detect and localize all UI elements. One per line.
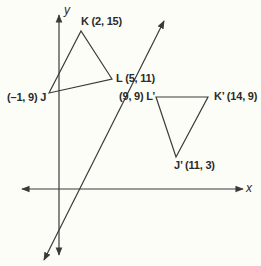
vertex-k-label: K (2, 15) (81, 15, 122, 27)
triangle-j-prime-k-prime-l-prime (156, 97, 208, 157)
reflection-line (44, 21, 164, 260)
vertex-j-label: (–1, 9) J (7, 91, 46, 103)
vertex-l-prime-label: (9, 9) L’ (119, 90, 155, 102)
y-axis-label: y (64, 3, 70, 17)
coordinate-plane (0, 0, 261, 266)
vertex-k-prime-label: K’ (14, 9) (214, 90, 257, 102)
vertex-j-prime-label: J’ (11, 3) (174, 159, 215, 171)
x-axis-label: x (246, 181, 252, 195)
vertex-l-label: L (5, 11) (116, 72, 155, 84)
